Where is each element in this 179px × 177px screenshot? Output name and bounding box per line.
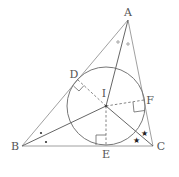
angle-a-mark-1 <box>117 41 119 43</box>
label-i: I <box>102 87 106 100</box>
right-angle-f <box>133 102 145 112</box>
incenter-dot <box>105 105 108 108</box>
right-angle-e <box>96 135 106 145</box>
angle-b-mark-1 <box>40 132 42 134</box>
bisector-b <box>22 106 106 146</box>
incircle-diagram: ★ ★ A B C D E F I <box>0 0 179 177</box>
right-angle-d <box>74 86 85 92</box>
label-d: D <box>70 68 79 81</box>
label-b: B <box>11 140 19 153</box>
angle-b-mark-2 <box>45 141 47 143</box>
label-e: E <box>102 148 110 161</box>
side-ca <box>128 20 153 146</box>
label-f: F <box>146 94 154 107</box>
label-a: A <box>123 6 133 19</box>
angle-c-star-2: ★ <box>133 136 140 145</box>
perpendicular-if <box>106 100 144 106</box>
angle-c-star-1: ★ <box>141 129 148 138</box>
label-c: C <box>157 140 165 153</box>
angle-a-mark-2 <box>127 43 129 45</box>
